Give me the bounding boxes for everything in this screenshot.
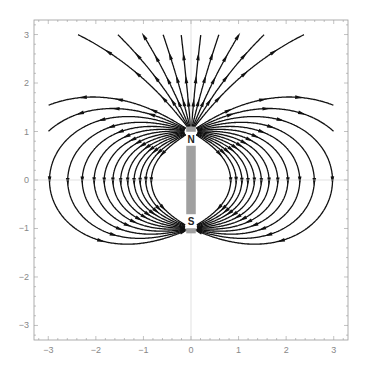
x-tick-label: 2 [284,345,289,355]
south-pole-label: S [188,216,195,227]
bar-magnet: NS [186,127,196,234]
x-tick-label: 1 [236,345,241,355]
y-tick-label: 2 [24,78,29,88]
y-tick-label: −1 [19,223,29,233]
y-tick-label: 1 [24,127,29,137]
x-tick-label: 3 [331,345,336,355]
y-tick-label: −2 [19,272,29,282]
y-tick-label: −3 [19,320,29,330]
x-tick-label: −3 [43,345,53,355]
north-pole-label: N [187,134,194,145]
stream-plot: −3−2−10123−3−2−10123 NS [0,0,367,373]
y-tick-label: 0 [24,175,29,185]
x-tick-label: −1 [138,345,148,355]
x-tick-label: −2 [91,345,101,355]
y-tick-label: 3 [24,30,29,40]
x-tick-label: 0 [188,345,193,355]
